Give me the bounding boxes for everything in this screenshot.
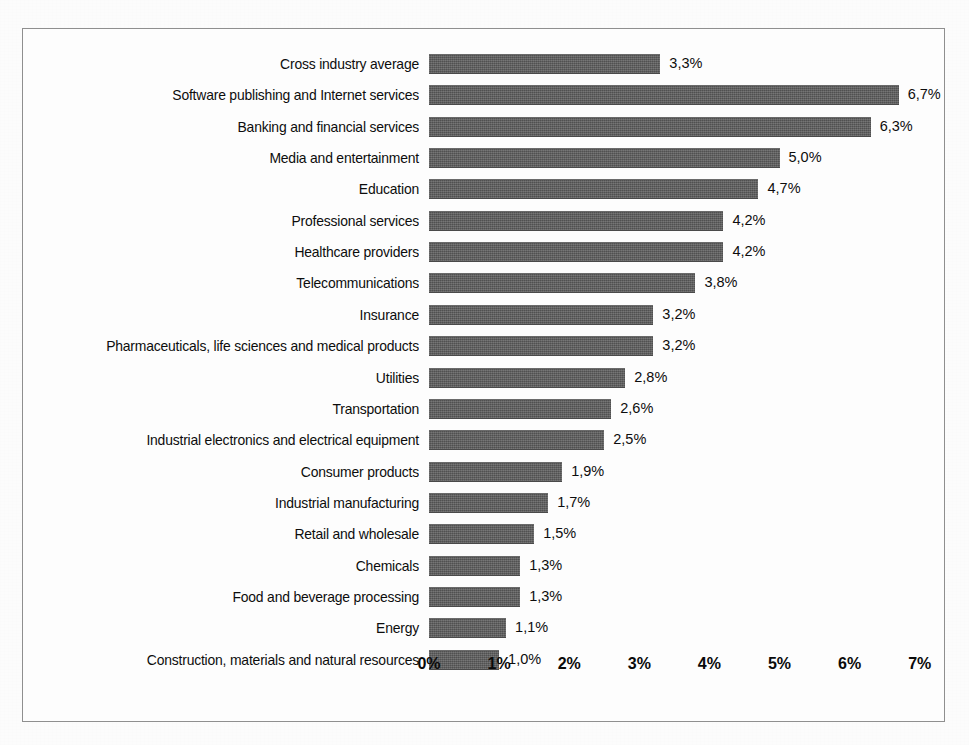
bar-value-label: 1,9%	[562, 461, 604, 481]
bar-value-label: 3,3%	[660, 53, 702, 73]
category-label: Transportation	[35, 398, 419, 420]
bar	[429, 179, 758, 199]
bar	[429, 430, 604, 450]
bar-container	[429, 399, 611, 419]
bar-row: Software publishing and Internet service…	[23, 84, 946, 106]
x-tick-label: 1%	[469, 653, 529, 675]
bar	[429, 368, 625, 388]
bar	[429, 524, 534, 544]
bar-value-label: 2,6%	[611, 398, 653, 418]
x-tick-label: 6%	[820, 653, 880, 675]
bar	[429, 399, 611, 419]
bar-container	[429, 462, 562, 482]
bar-row: Industrial electronics and electrical eq…	[23, 429, 946, 451]
bar	[429, 242, 723, 262]
bar-container	[429, 305, 653, 325]
x-tick-label: 2%	[539, 653, 599, 675]
bar-container	[429, 556, 520, 576]
category-label: Food and beverage processing	[35, 586, 419, 608]
bar-value-label: 5,0%	[780, 147, 822, 167]
bar	[429, 211, 723, 231]
bar-row: Telecommunications3,8%	[23, 272, 946, 294]
bar	[429, 273, 695, 293]
bar-row: Banking and financial services6,3%	[23, 116, 946, 138]
bar-row: Professional services4,2%	[23, 210, 946, 232]
bar-value-label: 1,7%	[548, 492, 590, 512]
bar-container	[429, 273, 695, 293]
bar-row: Transportation2,6%	[23, 398, 946, 420]
bar-container	[429, 368, 625, 388]
x-tick-label: 5%	[750, 653, 810, 675]
bar-value-label: 2,5%	[604, 429, 646, 449]
bar-row: Cross industry average3,3%	[23, 53, 946, 75]
bar	[429, 587, 520, 607]
bar	[429, 117, 871, 137]
bar-row: Food and beverage processing1,3%	[23, 586, 946, 608]
bar-container	[429, 493, 548, 513]
bar-container	[429, 54, 660, 74]
bar-row: Insurance3,2%	[23, 304, 946, 326]
bar-row: Retail and wholesale1,5%	[23, 523, 946, 545]
bar-container	[429, 430, 604, 450]
category-label: Consumer products	[35, 461, 419, 483]
bar-value-label: 1,5%	[534, 523, 576, 543]
bar-container	[429, 618, 506, 638]
bar-value-label: 3,2%	[653, 304, 695, 324]
bar-value-label: 6,7%	[899, 84, 941, 104]
category-label: Retail and wholesale	[35, 523, 419, 545]
bar-row: Utilities2,8%	[23, 367, 946, 389]
x-tick-label: 3%	[609, 653, 669, 675]
bar-row: Education4,7%	[23, 178, 946, 200]
bar-value-label: 3,2%	[653, 335, 695, 355]
category-label: Industrial manufacturing	[35, 492, 419, 514]
bar-container	[429, 85, 899, 105]
category-label: Banking and financial services	[35, 116, 419, 138]
bar-container	[429, 211, 723, 231]
bar-value-label: 4,2%	[723, 210, 765, 230]
x-tick-label: 0%	[399, 653, 459, 675]
bar	[429, 336, 653, 356]
bar-row: Chemicals1,3%	[23, 555, 946, 577]
category-label: Cross industry average	[35, 53, 419, 75]
bar	[429, 618, 506, 638]
bar	[429, 462, 562, 482]
bar-container	[429, 587, 520, 607]
bar	[429, 493, 548, 513]
category-label: Industrial electronics and electrical eq…	[35, 429, 419, 451]
category-label: Energy	[35, 617, 419, 639]
bar-value-label: 6,3%	[871, 116, 913, 136]
bar-value-label: 1,1%	[506, 617, 548, 637]
bar-chart-plot-area: Cross industry average3,3%Software publi…	[23, 29, 946, 723]
category-label: Software publishing and Internet service…	[35, 84, 419, 106]
category-label: Insurance	[35, 304, 419, 326]
x-axis-tick-labels: 0%1%2%3%4%5%6%7%	[23, 653, 946, 683]
category-label: Pharmaceuticals, life sciences and medic…	[35, 335, 419, 357]
bar-value-label: 1,3%	[520, 586, 562, 606]
bar-value-label: 4,2%	[723, 241, 765, 261]
bar	[429, 85, 899, 105]
bar-value-label: 4,7%	[758, 178, 800, 198]
bar-row: Industrial manufacturing1,7%	[23, 492, 946, 514]
bar-container	[429, 179, 758, 199]
bar-row: Consumer products1,9%	[23, 461, 946, 483]
bar-row: Energy1,1%	[23, 617, 946, 639]
bar-container	[429, 336, 653, 356]
category-label: Media and entertainment	[35, 147, 419, 169]
bar	[429, 305, 653, 325]
x-tick-label: 4%	[679, 653, 739, 675]
category-label: Utilities	[35, 367, 419, 389]
chart-frame-border: Cross industry average3,3%Software publi…	[22, 28, 945, 722]
x-tick-label: 7%	[890, 653, 950, 675]
category-label: Healthcare providers	[35, 241, 419, 263]
category-label: Chemicals	[35, 555, 419, 577]
bar	[429, 148, 780, 168]
category-label: Telecommunications	[35, 272, 419, 294]
bar-value-label: 1,3%	[520, 555, 562, 575]
bar	[429, 556, 520, 576]
bar-container	[429, 524, 534, 544]
bar-row: Media and entertainment5,0%	[23, 147, 946, 169]
bar-row: Healthcare providers4,2%	[23, 241, 946, 263]
bar-value-label: 3,8%	[695, 272, 737, 292]
bar-container	[429, 242, 723, 262]
bar-value-label: 2,8%	[625, 367, 667, 387]
